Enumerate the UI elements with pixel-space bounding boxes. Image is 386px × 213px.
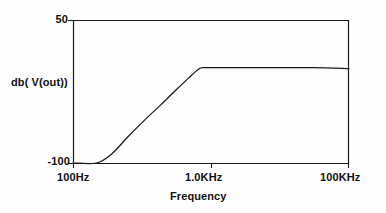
y-axis-max-label: 50 xyxy=(56,13,68,25)
axis-ticks xyxy=(68,21,349,169)
x-tick-label-right: 100KHz xyxy=(320,171,360,183)
data-series-db-vout xyxy=(73,68,349,164)
chart-page: 50 -100 db( V(out)) 100Hz 1.0KHz 100KHz … xyxy=(0,0,386,213)
x-axis-title: Frequency xyxy=(170,190,227,202)
response-curve xyxy=(73,68,349,164)
y-axis-min-label: -100 xyxy=(48,155,70,167)
x-tick-label-mid: 1.0KHz xyxy=(185,171,222,183)
y-axis-title: db( V(out)) xyxy=(11,76,68,88)
x-tick-label-left: 100Hz xyxy=(57,171,89,183)
plot-frame xyxy=(73,20,349,164)
